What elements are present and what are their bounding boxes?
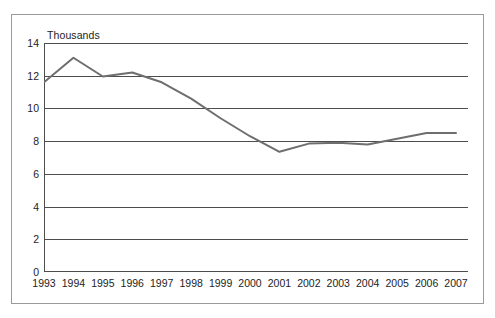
- x-tick-label-2006: 2006: [415, 278, 438, 289]
- series-line-1: [44, 58, 456, 152]
- x-tick-label-1996: 1996: [121, 278, 144, 289]
- chart-figure: Thousands 14121086420 199319941995199619…: [0, 0, 495, 318]
- x-axis-tick-labels: 1993199419951996199719981999200020012002…: [44, 278, 468, 294]
- x-tick-label-2003: 2003: [327, 278, 350, 289]
- x-tick-label-2007: 2007: [444, 278, 467, 289]
- y-tick-label-2: 2: [19, 234, 39, 245]
- y-axis-unit-label: Thousands: [47, 29, 100, 41]
- plot-area: [44, 43, 468, 272]
- x-tick-label-1995: 1995: [91, 278, 114, 289]
- x-tick-label-1998: 1998: [179, 278, 202, 289]
- y-tick-label-0: 0: [19, 267, 39, 278]
- x-tick-label-1993: 1993: [32, 278, 55, 289]
- x-tick-label-2000: 2000: [238, 278, 261, 289]
- x-tick-label-2004: 2004: [356, 278, 379, 289]
- x-tick-label-1999: 1999: [209, 278, 232, 289]
- y-tick-label-8: 8: [19, 136, 39, 147]
- y-tick-label-6: 6: [19, 169, 39, 180]
- y-tick-label-4: 4: [19, 201, 39, 212]
- y-axis-tick-labels: 14121086420: [14, 43, 39, 272]
- y-tick-label-12: 12: [19, 70, 39, 81]
- gridlines: [44, 44, 468, 240]
- x-tick-label-1994: 1994: [62, 278, 85, 289]
- y-tick-label-10: 10: [19, 103, 39, 114]
- x-tick-label-2002: 2002: [297, 278, 320, 289]
- x-tick-label-1997: 1997: [150, 278, 173, 289]
- data-series-group: [44, 58, 456, 152]
- x-tick-label-2001: 2001: [268, 278, 291, 289]
- x-tick-label-2005: 2005: [385, 278, 408, 289]
- axis-lines: [44, 43, 468, 272]
- y-tick-label-14: 14: [19, 38, 39, 49]
- line-chart-svg: [44, 43, 468, 272]
